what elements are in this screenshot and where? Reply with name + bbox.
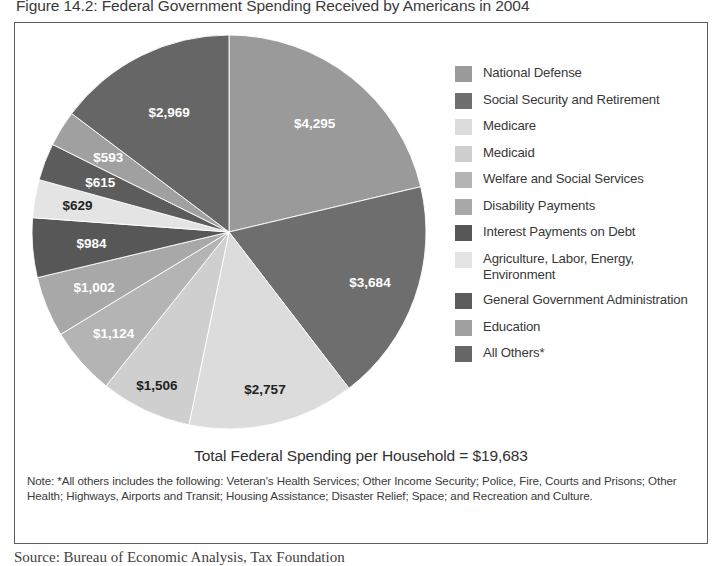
legend-color-swatch [455,225,472,241]
figure-title: Figure 14.2: Federal Government Spending… [16,0,529,15]
legend-item[interactable]: Interest Payments on Debt [455,224,705,241]
legend-color-swatch [455,320,472,336]
legend-color-swatch [455,119,472,135]
source-line: Source: Bureau of Economic Analysis, Tax… [14,549,345,566]
legend-color-swatch [455,346,472,362]
pie-slice-group [32,35,426,429]
legend-item-label: Welfare and Social Services [483,171,644,187]
legend-color-swatch [455,93,472,109]
pie-chart: $4,295$3,684$2,757$1,506$1,124$1,002$984… [21,27,441,437]
legend-item[interactable]: Social Security and Retirement [455,92,705,109]
legend-item[interactable]: Medicaid [455,145,705,162]
legend-item-label: Medicaid [483,145,535,161]
legend-color-swatch [455,293,472,309]
legend: National DefenseSocial Security and Reti… [455,65,705,372]
pie-slice-value-label: $2,757 [244,382,285,397]
legend-item[interactable]: Welfare and Social Services [455,171,705,188]
legend-item[interactable]: All Others* [455,345,705,362]
pie-chart-svg: $4,295$3,684$2,757$1,506$1,124$1,002$984… [21,27,441,437]
pie-slice-value-label: $593 [93,150,124,165]
legend-item-label: Agriculture, Labor, Energy, Environment [483,251,705,283]
legend-color-swatch [455,252,472,268]
legend-item[interactable]: Disability Payments [455,198,705,215]
pie-slice-value-label: $2,969 [149,105,190,120]
legend-item-label: Education [483,319,540,335]
legend-item-label: Interest Payments on Debt [483,224,635,240]
legend-item[interactable]: National Defense [455,65,705,82]
legend-color-swatch [455,199,472,215]
legend-item[interactable]: Medicare [455,118,705,135]
legend-item-label: General Government Administration [483,292,688,308]
legend-color-swatch [455,146,472,162]
figure-container: $4,295$3,684$2,757$1,506$1,124$1,002$984… [14,22,708,544]
legend-item-label: Medicare [483,118,536,134]
pie-slice-value-label: $3,684 [349,275,391,290]
footnote-note: Note: *All others includes the following… [27,474,695,503]
pie-slice-value-label: $629 [63,198,93,213]
legend-item-label: Disability Payments [483,198,595,214]
legend-color-swatch [455,66,472,82]
total-spending-line: Total Federal Spending per Household = $… [15,447,707,465]
legend-item[interactable]: General Government Administration [455,292,705,309]
pie-slice-value-label: $1,506 [136,378,178,393]
legend-item[interactable]: Education [455,319,705,336]
pie-slice-value-label: $984 [76,236,107,251]
pie-slice-value-label: $1,002 [74,280,115,295]
pie-slice-value-label: $4,295 [294,116,336,131]
legend-color-swatch [455,172,472,188]
legend-item-label: All Others* [483,345,544,361]
pie-slice-value-label: $615 [85,175,116,190]
legend-item-label: Social Security and Retirement [483,92,660,108]
pie-slice-value-label: $1,124 [93,326,135,341]
legend-item-label: National Defense [483,65,582,81]
legend-item[interactable]: Agriculture, Labor, Energy, Environment [455,251,705,283]
